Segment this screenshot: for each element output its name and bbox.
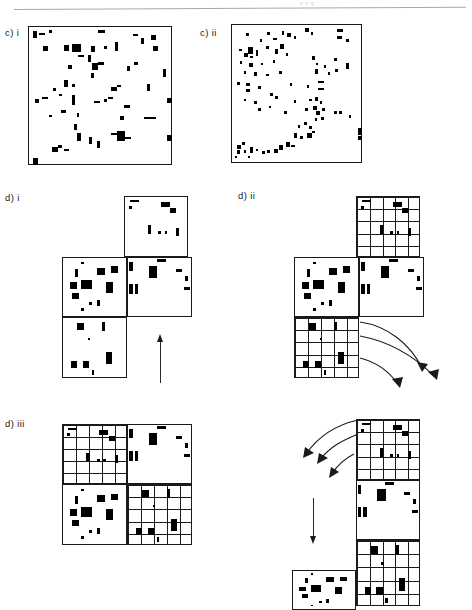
data-point-mark <box>153 505 156 507</box>
data-point-mark <box>324 370 327 375</box>
data-point-mark <box>74 124 77 130</box>
data-point-mark <box>397 231 400 233</box>
data-point-mark <box>322 108 325 111</box>
data-point-mark <box>313 308 316 310</box>
grid-overlay <box>128 485 191 544</box>
data-point-mark <box>170 208 176 213</box>
data-point-mark <box>304 122 307 125</box>
panel-label-d-ii: d) ii <box>238 190 255 201</box>
data-point-mark <box>313 262 316 264</box>
data-point-mark <box>130 200 139 202</box>
data-point-mark <box>316 63 319 66</box>
data-point-mark <box>149 433 157 445</box>
data-point-mark <box>167 135 171 141</box>
data-point-mark <box>334 111 337 114</box>
data-point-mark <box>324 65 327 68</box>
data-point-mark <box>319 601 322 603</box>
data-point-mark <box>256 149 259 152</box>
data-point-mark <box>279 71 282 74</box>
data-point-mark <box>311 585 321 591</box>
data-point-mark <box>135 284 138 294</box>
data-point-mark <box>151 35 156 40</box>
data-point-mark <box>390 454 393 457</box>
data-point-mark <box>33 31 37 38</box>
panel-d-iii-tile-bottom-right <box>127 484 192 545</box>
data-point-mark <box>81 507 91 517</box>
data-point-mark <box>399 578 405 591</box>
data-point-mark <box>320 101 323 104</box>
data-point-mark <box>106 352 112 364</box>
data-point-mark <box>75 496 78 504</box>
data-point-mark <box>320 338 323 340</box>
data-point-mark <box>72 44 81 52</box>
data-point-mark <box>358 128 362 135</box>
data-point-mark <box>395 545 398 555</box>
data-point-mark <box>376 587 382 595</box>
data-point-mark <box>312 56 315 60</box>
data-point-mark <box>365 587 371 595</box>
data-point-mark <box>64 45 70 51</box>
data-point-mark <box>67 433 70 436</box>
data-point-mark <box>329 300 332 306</box>
data-point-mark <box>404 492 410 495</box>
data-point-mark <box>294 133 298 137</box>
panel-d-i-up-arrow-head <box>157 334 163 342</box>
data-point-mark <box>171 519 177 531</box>
data-point-mark <box>412 510 418 513</box>
data-point-mark <box>371 546 378 553</box>
data-point-mark <box>274 149 278 153</box>
data-point-mark <box>77 133 81 141</box>
data-point-mark <box>299 587 306 591</box>
data-point-mark <box>185 276 188 281</box>
data-point-mark <box>78 55 84 57</box>
data-point-mark <box>262 151 265 154</box>
data-point-mark <box>77 323 84 330</box>
data-point-mark <box>129 429 132 439</box>
panel-d-i-tile-mid-right <box>127 257 192 317</box>
data-point-mark <box>393 202 402 207</box>
data-point-mark <box>315 69 319 73</box>
data-point-mark <box>97 268 105 275</box>
data-point-mark <box>239 49 243 52</box>
data-point-mark <box>267 32 270 35</box>
data-point-mark <box>117 85 121 87</box>
data-point-mark <box>142 490 149 497</box>
data-point-mark <box>343 266 350 273</box>
data-point-mark <box>70 282 77 289</box>
data-point-mark <box>302 282 309 289</box>
data-point-mark <box>380 225 383 234</box>
data-point-mark <box>313 280 323 290</box>
data-point-mark <box>305 578 308 583</box>
data-point-mark <box>358 507 361 517</box>
data-point-mark <box>307 269 310 277</box>
data-point-mark <box>83 361 90 368</box>
panel-d-iii-tile-bottom-left <box>62 484 127 545</box>
data-point-mark <box>321 117 324 120</box>
data-point-mark <box>97 300 100 306</box>
data-point-mark <box>185 443 188 448</box>
panel-d-iv-tile-bottom-grid <box>356 540 420 606</box>
data-point-mark <box>77 113 80 117</box>
data-point-mark <box>402 208 408 213</box>
data-point-mark <box>81 489 84 491</box>
data-point-mark <box>380 448 383 457</box>
data-point-mark <box>81 280 91 290</box>
data-point-mark <box>61 110 67 113</box>
data-point-mark <box>127 66 130 72</box>
data-point-mark <box>408 228 411 237</box>
grid-overlay <box>63 425 126 483</box>
data-point-mark <box>161 202 170 207</box>
data-point-mark <box>313 106 317 110</box>
data-point-mark <box>102 322 105 331</box>
data-point-mark <box>99 430 108 435</box>
data-point-mark <box>58 145 62 148</box>
data-point-mark <box>269 106 272 109</box>
panel-d-i-tile-top <box>124 196 188 257</box>
data-point-mark <box>115 455 118 463</box>
data-point-mark <box>339 111 342 114</box>
data-point-mark <box>254 72 257 76</box>
panel-d-iv-down-arrow-shaft <box>313 498 314 538</box>
data-point-mark <box>298 125 301 128</box>
data-point-mark <box>294 100 297 103</box>
